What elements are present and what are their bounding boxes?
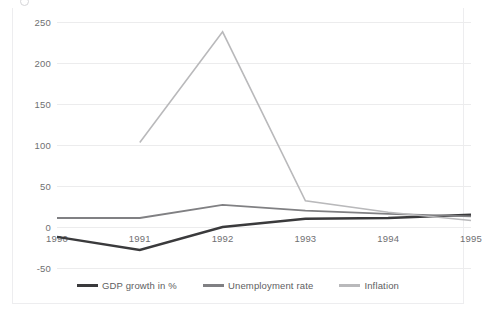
legend-label: Inflation — [364, 280, 399, 291]
legend-swatch-icon — [77, 284, 98, 287]
y-axis-tick-label: 200 — [35, 58, 51, 69]
y-axis-tick-label: 100 — [35, 140, 51, 151]
legend-swatch-icon — [339, 284, 360, 287]
plot-area: 250200150100500-50 199019911992199319941… — [57, 22, 471, 268]
chart-legend: GDP growth in %Unemployment rateInflatio… — [13, 280, 463, 291]
legend-label: GDP growth in % — [102, 280, 177, 291]
legend-item[interactable]: GDP growth in % — [77, 280, 177, 291]
y-axis-tick-label: 50 — [40, 181, 51, 192]
y-axis-tick-label: 250 — [35, 17, 51, 28]
legend-swatch-icon — [203, 284, 224, 287]
legend-item[interactable]: Inflation — [339, 280, 399, 291]
series-line — [140, 32, 471, 221]
series-line — [57, 215, 471, 250]
clipped-top-strip — [0, 0, 476, 8]
legend-item[interactable]: Unemployment rate — [203, 280, 313, 291]
legend-label: Unemployment rate — [228, 280, 313, 291]
gridline — [57, 268, 471, 269]
clipped-top-text — [28, 0, 31, 6]
series-lines-group — [57, 22, 471, 268]
y-axis-tick-label: 0 — [46, 222, 51, 233]
chart-plot-frame: 250200150100500-50 199019911992199319941… — [12, 8, 464, 304]
y-axis-tick-label: 150 — [35, 99, 51, 110]
y-axis-tick-label: -50 — [37, 263, 51, 274]
